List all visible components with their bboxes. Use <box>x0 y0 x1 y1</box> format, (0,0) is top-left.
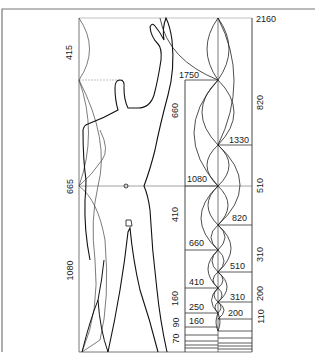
right-interval-310: 310 <box>256 247 265 262</box>
blue-label-410: 410 <box>189 278 204 287</box>
right-interval-200: 200 <box>256 286 265 301</box>
blue-label-1080: 1080 <box>187 175 207 184</box>
red-label-310: 310 <box>230 293 245 302</box>
blue-label-250: 250 <box>189 303 204 312</box>
right-interval-820: 820 <box>256 95 265 110</box>
left-scale-label-1080: 1080 <box>66 260 75 280</box>
left-interval-70: 70 <box>172 333 181 343</box>
blue-label-1750: 1750 <box>179 71 199 80</box>
left-interval-410: 410 <box>171 207 180 222</box>
left-interval-660: 660 <box>171 103 180 118</box>
red-label-200: 200 <box>228 309 243 318</box>
red-label-820: 820 <box>232 214 247 223</box>
modulor-diagram: 415 665 1080 2160 1330 820 510 310 200 1… <box>0 0 315 356</box>
modulor-drawing <box>0 0 315 356</box>
right-interval-510: 510 <box>256 178 265 193</box>
blue-label-660: 660 <box>189 239 204 248</box>
red-label-1330: 1330 <box>229 136 249 145</box>
left-interval-160: 160 <box>171 291 180 306</box>
left-scale-label-415: 415 <box>65 45 74 60</box>
left-interval-90: 90 <box>172 317 181 327</box>
blue-label-160: 160 <box>189 317 204 326</box>
red-label-2160: 2160 <box>256 15 276 24</box>
red-label-510: 510 <box>230 262 245 271</box>
right-interval-110: 110 <box>257 309 266 323</box>
left-scale-label-665: 665 <box>66 179 75 194</box>
